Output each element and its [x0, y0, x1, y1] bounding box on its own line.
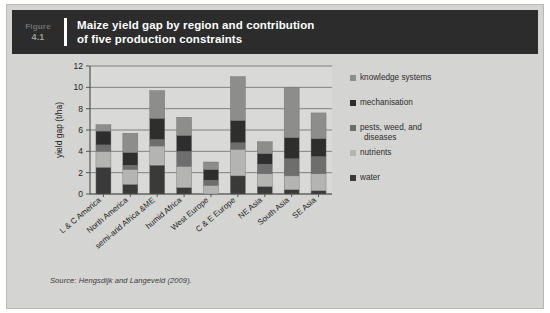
bar-segment — [96, 167, 111, 194]
bar-segment — [123, 165, 138, 169]
chart-plot-host: 024681012yield gap (t/ha)L & C AmericaNo… — [12, 58, 538, 303]
title-line-2: of five production constraints — [77, 32, 314, 46]
bar-segment — [311, 139, 326, 157]
bar-segment — [257, 164, 272, 174]
page-title: Maize yield gap by region and contributi… — [77, 18, 314, 46]
figure-page: Figure 4.1 Maize yield gap by region and… — [0, 0, 550, 313]
bar-segment — [123, 169, 138, 184]
figure-header: Figure 4.1 Maize yield gap by region and… — [12, 10, 538, 54]
source-note: Source: Hengsdijk and Langeveld (2009). — [50, 276, 192, 285]
figure-number: 4.1 — [12, 32, 64, 43]
bar-segment — [311, 157, 326, 174]
bar-segment — [123, 184, 138, 194]
chart-container: 024681012yield gap (t/ha)L & C AmericaNo… — [12, 58, 538, 303]
bar-segment — [311, 113, 326, 139]
bar-segment — [284, 190, 299, 194]
legend-label: knowledge systems — [360, 73, 431, 82]
bar-segment — [150, 118, 165, 139]
bar-segment — [150, 91, 165, 119]
y-tick-label: 6 — [78, 125, 83, 135]
bar-segment — [150, 165, 165, 194]
bar-segment — [204, 185, 219, 194]
bar-group — [96, 125, 111, 194]
y-tick-label: 10 — [74, 82, 84, 92]
bar-segment — [96, 131, 111, 145]
legend-swatch — [350, 125, 356, 131]
bar-segment — [230, 120, 245, 142]
bar-segment — [204, 180, 219, 185]
bar-group — [177, 117, 192, 194]
bar-segment — [257, 174, 272, 187]
y-axis-title: yield gap (t/ha) — [54, 102, 64, 158]
bar-segment — [230, 176, 245, 194]
bar-group — [123, 133, 138, 194]
bar-segment — [177, 166, 192, 187]
bar-group — [284, 87, 299, 194]
bar-group — [150, 91, 165, 194]
bar-group — [257, 142, 272, 194]
bar-segment — [177, 151, 192, 166]
bar-segment — [123, 133, 138, 152]
bar-segment — [96, 145, 111, 151]
legend-swatch — [350, 150, 356, 156]
y-tick-label: 0 — [78, 189, 83, 199]
bar-segment — [284, 176, 299, 190]
legend-swatch — [350, 100, 356, 106]
bar-segment — [257, 142, 272, 154]
x-tick-label: SE Asia — [291, 195, 319, 220]
source-prefix: Source: — [50, 276, 77, 285]
bar-segment — [96, 151, 111, 167]
y-tick-label: 8 — [78, 104, 83, 114]
legend-swatch — [350, 75, 356, 81]
bar-segment — [177, 135, 192, 151]
y-tick-label: 2 — [78, 168, 83, 178]
bar-segment — [257, 187, 272, 194]
header-divider — [64, 18, 67, 46]
bar-segment — [204, 169, 219, 180]
legend-label: nutrients — [360, 148, 391, 157]
bar-segment — [96, 125, 111, 131]
legend-label: mechanisation — [360, 98, 413, 107]
bar-segment — [284, 159, 299, 176]
legend-swatch — [350, 175, 356, 181]
legend-label: pests, weed, and — [360, 123, 422, 132]
bar-segment — [177, 117, 192, 135]
bar-segment — [284, 87, 299, 137]
legend-label: water — [359, 173, 380, 182]
title-line-1: Maize yield gap by region and contributi… — [77, 18, 314, 32]
stacked-bar-chart: 024681012yield gap (t/ha)L & C AmericaNo… — [12, 58, 538, 303]
bar-segment — [257, 153, 272, 164]
bar-segment — [284, 137, 299, 158]
bar-segment — [311, 191, 326, 194]
bar-group — [204, 162, 219, 194]
bar-segment — [230, 77, 245, 121]
bar-segment — [230, 149, 245, 176]
figure-label: Figure — [12, 21, 64, 32]
bar-segment — [150, 146, 165, 165]
bar-segment — [311, 174, 326, 191]
figure-tag: Figure 4.1 — [12, 21, 64, 43]
bar-group — [230, 77, 245, 194]
legend-label-cont: diseases — [364, 133, 396, 142]
bar-group — [311, 113, 326, 194]
bar-segment — [204, 162, 219, 169]
bar-segment — [230, 143, 245, 149]
bar-segment — [123, 152, 138, 165]
bar-segment — [177, 188, 192, 194]
source-text: Hengsdijk and Langeveld (2009). — [77, 276, 192, 285]
y-tick-label: 12 — [74, 61, 84, 71]
y-tick-label: 4 — [78, 146, 83, 156]
bar-segment — [150, 140, 165, 146]
